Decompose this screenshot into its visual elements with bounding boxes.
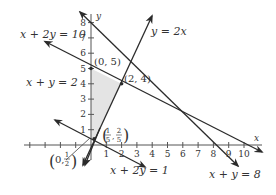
svg-text:2: 2: [65, 160, 69, 168]
svg-text:1: 1: [65, 151, 69, 159]
label-x-plus-y-eq-2: x + y = 2: [26, 76, 78, 89]
line-x-plus-2y-eq-10: [45, 42, 262, 153]
label-y-eq-2x: y = 2x: [150, 25, 187, 38]
vertex-0-5: [89, 67, 93, 71]
svg-text:3: 3: [80, 94, 86, 104]
svg-text:6: 6: [180, 149, 186, 159]
graph-canvas: 1 2 3 4 5 6 7 8 9 10 1 2 3 4 5 6 7 8 x y…: [0, 0, 276, 195]
svg-text:3: 3: [134, 149, 140, 159]
svg-text:7: 7: [195, 149, 201, 159]
label-x-plus-2y-eq-10: x + 2y = 10: [20, 28, 86, 41]
vertex-2-4: [120, 82, 124, 86]
svg-text:4: 4: [149, 149, 155, 159]
svg-text:2: 2: [80, 109, 86, 119]
svg-text:5: 5: [165, 149, 171, 159]
label-x-plus-y-eq-8: x + y = 8: [209, 168, 261, 181]
svg-text:6: 6: [80, 48, 86, 58]
svg-text:10: 10: [238, 149, 250, 159]
svg-text:): ): [71, 152, 77, 171]
label-point-1-5-2-5: ( 1 5 , 2 5 ): [102, 126, 129, 145]
svg-text:5: 5: [106, 136, 110, 144]
svg-text:8: 8: [211, 149, 217, 159]
label-point-0-1-2: ( 0, 1 2 ): [49, 151, 77, 171]
label-point-0-5: (0, 5): [94, 56, 121, 67]
svg-text:): ): [123, 126, 129, 145]
svg-text:,: ,: [112, 132, 115, 141]
svg-text:1: 1: [103, 149, 109, 159]
x-axis-label: x: [254, 133, 259, 143]
y-axis-label: y: [95, 11, 102, 21]
svg-text:1: 1: [106, 127, 110, 135]
svg-text:4: 4: [80, 79, 86, 89]
svg-text:2: 2: [117, 127, 121, 135]
svg-text:0,: 0,: [55, 154, 65, 165]
label-point-2-4: (2, 4): [124, 73, 151, 84]
svg-text:5: 5: [80, 64, 86, 74]
vertex-1-5-2-5: [92, 137, 96, 141]
svg-text:5: 5: [117, 136, 121, 144]
label-x-plus-2y-eq-1: x + 2y = 1: [110, 164, 169, 177]
svg-text:8: 8: [80, 18, 86, 28]
